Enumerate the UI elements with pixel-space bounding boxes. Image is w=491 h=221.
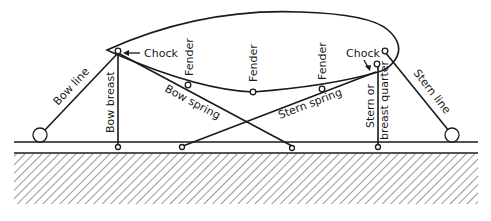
label-chock-stern: Chock (346, 47, 380, 60)
arrow-head-icon (365, 65, 371, 71)
bollard-stern (445, 128, 459, 142)
label-fender-1: Fender (183, 38, 196, 76)
chock-bow (115, 48, 121, 54)
label-bow-breast: Bow breast (104, 71, 117, 133)
mooring-lines-diagram: Chock Chock Fender Fender Fender Bow lin… (0, 0, 491, 221)
label-breast-quarter: breast quarter (378, 60, 391, 140)
bow-spring-rope (118, 53, 292, 146)
bollard-bow (33, 128, 47, 142)
label-bow-spring: Bow spring (163, 82, 223, 122)
cleat-bow-breast (116, 145, 121, 150)
cleat-bow-spring (290, 146, 295, 151)
chock-stern (382, 48, 388, 54)
fender-2 (250, 89, 256, 95)
pier-ground (14, 142, 478, 204)
fender-1 (185, 82, 191, 88)
cleat-stern-spring (180, 145, 185, 150)
label-stern-spring: Stern spring (276, 86, 343, 122)
cleat-stern-breast (376, 145, 381, 150)
label-fender-3: Fender (316, 42, 329, 80)
label-chock-bow: Chock (144, 47, 178, 60)
label-fender-2: Fender (247, 44, 260, 82)
arrow-head-icon (123, 50, 129, 56)
label-stern-or: Stern or (364, 83, 377, 128)
